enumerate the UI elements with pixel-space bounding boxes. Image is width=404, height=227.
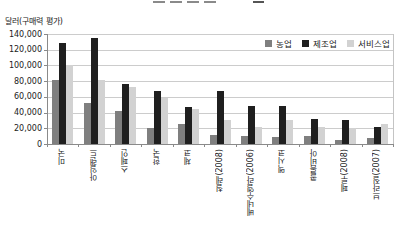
y-axis-tick-label: 0 — [2, 140, 42, 149]
bar — [349, 128, 356, 144]
y-axis-title: 달러(구매력 평가) — [5, 15, 63, 26]
y-axis-line — [47, 34, 48, 147]
bar — [147, 128, 154, 145]
gridline — [47, 65, 393, 66]
bar — [248, 106, 255, 145]
bar — [304, 136, 311, 144]
x-axis-tick — [141, 144, 142, 147]
bar — [84, 103, 91, 144]
title-fragment-mark — [204, 1, 216, 3]
bar — [318, 127, 325, 144]
bar — [335, 140, 342, 144]
gridline — [47, 50, 393, 51]
bar — [272, 137, 279, 144]
x-axis-category-label: 미국 — [57, 149, 67, 165]
x-axis-category-label: 스페인 — [120, 149, 130, 173]
title-fragment-mark — [153, 1, 165, 3]
x-axis-category-label: 페루(2008) — [340, 149, 350, 192]
x-axis-tick — [267, 144, 268, 147]
legend-label: 제조업 — [313, 37, 337, 49]
y-axis-tick-label: 120,000 — [2, 45, 42, 54]
gridline — [47, 34, 393, 35]
bar — [381, 124, 388, 144]
bar — [217, 91, 224, 144]
services-swatch-icon — [347, 40, 354, 47]
bar — [115, 111, 122, 144]
bar — [122, 84, 129, 145]
bar — [154, 91, 161, 144]
x-axis-category-label: 칠레(2008) — [215, 149, 225, 192]
bar-chart: 달러(구매력 평가) 140,000120,000100,00080,00060… — [0, 0, 404, 227]
title-fragment-mark — [170, 1, 182, 3]
bar — [241, 136, 248, 144]
x-axis-category-label: 한국 — [152, 149, 162, 165]
y-axis-tick-label: 40,000 — [2, 108, 42, 117]
agriculture-swatch-icon — [265, 40, 272, 47]
x-axis-tick — [204, 144, 205, 147]
x-axis-tick — [236, 144, 237, 147]
bar — [192, 109, 199, 144]
x-axis-tick — [330, 144, 331, 147]
y-axis-tick-label: 140,000 — [2, 30, 42, 39]
legend-label: 서비스업 — [358, 37, 390, 49]
legend-item-services: 서비스업 — [347, 37, 390, 49]
plot-right-border — [393, 34, 394, 144]
title-fragment-mark — [253, 1, 264, 3]
x-axis-tick — [173, 144, 174, 147]
x-axis-tick — [393, 144, 394, 147]
bar — [185, 107, 192, 144]
y-axis-tick-label: 20,000 — [2, 124, 42, 133]
bar — [255, 127, 262, 144]
manufacturing-swatch-icon — [302, 40, 309, 47]
bar — [52, 80, 59, 144]
y-axis-tick-label: 100,000 — [2, 61, 42, 70]
x-axis-tick — [47, 144, 48, 147]
x-axis-category-label: 아일랜드 — [89, 149, 99, 181]
bar — [374, 127, 381, 144]
bar — [66, 65, 73, 144]
legend-item-agriculture: 농업 — [265, 37, 292, 49]
y-axis-tick-label: 60,000 — [2, 92, 42, 101]
bar — [224, 120, 231, 144]
bar — [367, 138, 374, 144]
bar — [178, 124, 185, 144]
x-axis-tick — [78, 144, 79, 147]
bar — [342, 120, 349, 144]
x-axis-category-label: 콜롬비아 — [309, 149, 319, 181]
bar — [161, 98, 168, 144]
x-axis-tick — [110, 144, 111, 147]
bar — [210, 135, 217, 144]
title-fragment-mark — [187, 1, 199, 3]
x-axis-category-label: 브라질(2007) — [372, 149, 382, 200]
bar — [59, 43, 66, 144]
bar — [311, 119, 318, 144]
chart-legend: 농업 제조업 서비스업 — [265, 37, 390, 49]
bar — [279, 106, 286, 145]
gridline — [47, 144, 393, 145]
x-axis-category-label: 베네수엘라(2006) — [246, 149, 256, 216]
bar — [98, 80, 105, 144]
legend-label: 농업 — [276, 37, 292, 49]
x-axis-tick — [299, 144, 300, 147]
bar — [286, 120, 293, 144]
x-axis-tick — [362, 144, 363, 147]
x-axis-category-label: 멕시코 — [277, 149, 287, 173]
bar — [129, 87, 136, 144]
y-axis-tick-label: 80,000 — [2, 77, 42, 86]
bar — [91, 38, 98, 144]
x-axis-category-label: 체코 — [183, 149, 193, 165]
legend-item-manufacturing: 제조업 — [302, 37, 337, 49]
